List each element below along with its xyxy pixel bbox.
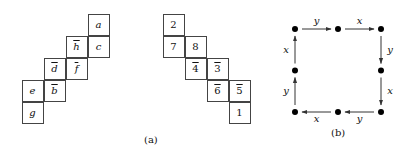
graph-node: [292, 68, 298, 74]
edge-label: y: [386, 44, 393, 55]
edge-label: y: [313, 15, 320, 26]
graph-node: [378, 109, 384, 115]
graph-node: [335, 109, 341, 115]
edge-label: y: [356, 113, 363, 124]
edge-label: x: [357, 15, 363, 26]
graph-node: [292, 26, 298, 32]
graph-node: [378, 68, 384, 74]
cycle-graph: yxyxyxyx: [0, 0, 413, 152]
graph-node: [378, 26, 384, 32]
edge-label: x: [283, 44, 289, 55]
edge-label: x: [314, 113, 320, 124]
graph-node: [335, 26, 341, 32]
graph-node: [292, 109, 298, 115]
edge-label: x: [387, 85, 393, 96]
caption-b: (b): [331, 127, 345, 138]
edge-label: y: [282, 85, 289, 96]
